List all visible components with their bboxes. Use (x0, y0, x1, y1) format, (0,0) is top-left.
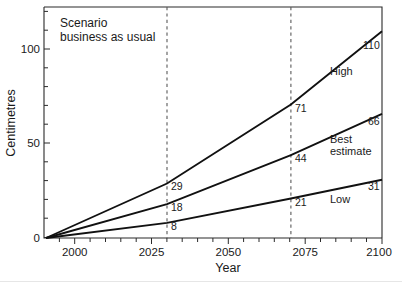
x-tick-label-2050: 2050 (216, 246, 242, 258)
value-label-best-2100: 66 (368, 115, 380, 127)
y-tick-label-100: 100 (21, 43, 40, 55)
value-label-high-2030: 29 (171, 180, 183, 192)
bottom-divider (0, 281, 402, 282)
value-label-high-2100: 110 (363, 39, 380, 51)
x-tick-label-2075: 2075 (292, 246, 318, 258)
y-axis-minor-ticks (44, 11, 48, 218)
y-axis-major-ticks (44, 49, 50, 238)
series-label-low: Low (330, 193, 350, 205)
x-tick-label-2025: 2025 (139, 246, 165, 258)
chart-figure: 100 50 0 2000 2025 2050 2075 2100 Year C… (0, 0, 402, 285)
value-label-low-2100: 31 (368, 180, 380, 192)
x-tick-label-2100: 2100 (366, 246, 392, 258)
series-label-best-estimate-line-1: Best (330, 133, 352, 145)
value-label-low-2070: 21 (295, 196, 307, 208)
x-tick-label-2000: 2000 (62, 246, 88, 258)
x-axis-title: Year (215, 261, 240, 275)
scenario-annotation-line-2: business as usual (60, 30, 155, 44)
series-line-low (46, 180, 382, 238)
y-tick-label-50: 50 (27, 137, 40, 149)
series-label-high: High (330, 65, 353, 77)
value-label-best-2030: 18 (171, 201, 183, 213)
y-axis-title: Centimetres (4, 89, 18, 156)
series-label-best-estimate-line-2: estimate (330, 145, 372, 157)
value-label-best-2070: 44 (295, 152, 307, 164)
sea-level-rise-line-chart: 100 50 0 2000 2025 2050 2075 2100 Year C… (0, 0, 402, 285)
value-label-low-2030: 8 (171, 220, 177, 232)
x-axis-minor-ticks (59, 238, 366, 242)
scenario-annotation-line-1: Scenario (60, 16, 108, 30)
value-label-high-2070: 71 (295, 102, 307, 114)
y-tick-label-0: 0 (34, 232, 40, 244)
